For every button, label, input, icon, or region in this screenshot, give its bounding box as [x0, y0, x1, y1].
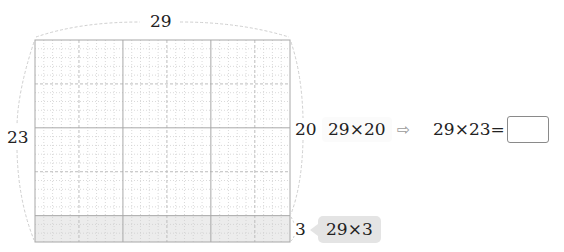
right-lower-bracket [291, 217, 294, 241]
upper-part-expression: 29×20 [322, 117, 392, 142]
right-upper-bracket [291, 42, 303, 118]
lower-height-label: 3 [295, 221, 306, 238]
grid-minor-lines [35, 40, 290, 242]
grid-major-lines [35, 40, 290, 242]
implies-arrow-icon: ⇨ [397, 122, 410, 138]
grid-border [35, 40, 290, 242]
right-upper-bracket-lower [291, 140, 303, 214]
lower-part-expression: 29×3 [318, 216, 381, 243]
target-expression: 29×23= [433, 121, 505, 138]
shaded-strip [35, 216, 290, 242]
chip-pointer [310, 224, 318, 236]
grid-mid-lines [35, 40, 290, 242]
width-label: 29 [150, 13, 172, 30]
answer-input-box[interactable] [507, 116, 549, 143]
multiplication-area-diagram: 29 23 20 3 29×20 ⇨ 29×23= 29×3 [0, 0, 564, 252]
height-label: 23 [7, 129, 29, 146]
target-expression-row: 29×23= [433, 116, 549, 143]
upper-height-label: 20 [295, 121, 317, 138]
